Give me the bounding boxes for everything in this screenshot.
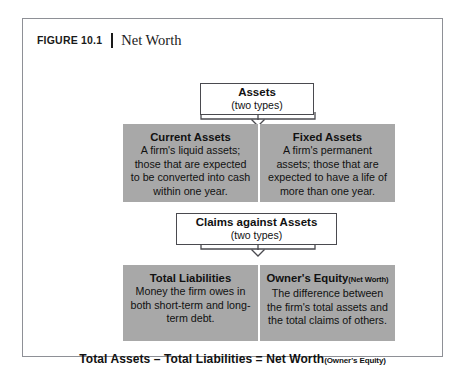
asset-types-band: Current Assets A firm's liquid assets; t… [123,124,395,202]
claim-types-band: Total Liabilities Money the firm owes in… [123,265,395,341]
figure-frame: FIGURE 10.1 Net Worth Assets (two types)… [22,18,443,357]
total-liabilities-title-text: Total Liabilities [150,272,231,284]
figure-title: Net Worth [121,32,181,49]
current-assets-title: Current Assets [129,130,252,144]
owners-equity-body: The difference between the firm's total … [266,287,389,328]
current-assets-cell: Current Assets A firm's liquid assets; t… [123,124,260,202]
owners-equity-title: Owner's Equity(Net Worth) [266,271,389,287]
total-liabilities-cell: Total Liabilities Money the firm owes in… [123,265,260,341]
figure-number: FIGURE 10.1 [37,34,102,46]
equation-main: Total Assets – Total Liabilities = Net W… [79,352,324,366]
claims-node: Claims against Assets (two types) [176,213,337,245]
net-worth-equation: Total Assets – Total Liabilities = Net W… [23,349,442,367]
assets-node-subtitle: (two types) [231,99,282,112]
claims-node-subtitle: (two types) [231,229,282,242]
figure-header-divider [111,33,113,48]
fixed-assets-body: A firm's permanent assets; those that ar… [266,144,389,198]
figure-header: FIGURE 10.1 Net Worth [37,31,181,49]
owners-equity-title-note: (Net Worth) [348,275,388,284]
assets-node: Assets (two types) [200,83,314,115]
current-assets-body: A firm's liquid assets; those that are e… [129,144,252,198]
fixed-assets-title: Fixed Assets [266,130,389,144]
assets-node-title: Assets [238,86,276,99]
owners-equity-title-text: Owner's Equity [267,272,349,284]
total-liabilities-title: Total Liabilities [129,271,252,285]
total-liabilities-body: Money the firm owes in both short-term a… [129,285,252,326]
equation-note: (Owner's Equity) [324,356,386,365]
owners-equity-cell: Owner's Equity(Net Worth) The difference… [260,265,395,341]
claims-node-title: Claims against Assets [196,216,318,229]
fixed-assets-cell: Fixed Assets A firm's permanent assets; … [260,124,395,202]
